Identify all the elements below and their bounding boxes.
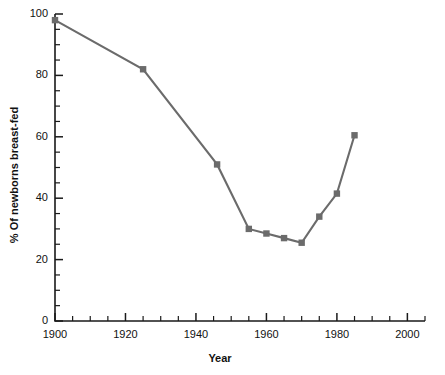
y-tick-label: 100 (30, 7, 48, 19)
y-axis-ticks (55, 14, 63, 321)
y-axis-title: % Of newborns breast-fed (8, 107, 20, 243)
x-axis-title: Year (208, 352, 232, 364)
y-tick-label: 0 (42, 314, 48, 326)
x-tick-label: 2000 (395, 328, 419, 340)
chart-container: 020406080100 190019201940196019802000 % … (0, 0, 445, 375)
data-point-marker (52, 17, 58, 23)
x-tick-label: 1980 (325, 328, 349, 340)
data-point-marker (351, 132, 357, 138)
data-point-marker (298, 240, 304, 246)
data-point-marker (214, 161, 220, 167)
y-tick-label: 60 (36, 130, 48, 142)
data-point-marker (334, 190, 340, 196)
data-point-marker (246, 226, 252, 232)
line-chart: 020406080100 190019201940196019802000 % … (0, 0, 445, 375)
axis-lines (55, 14, 425, 321)
x-axis-ticks (55, 313, 425, 321)
x-tick-label: 1920 (113, 328, 137, 340)
y-tick-label: 40 (36, 191, 48, 203)
data-point-marker (263, 230, 269, 236)
y-axis-tick-labels: 020406080100 (30, 7, 48, 326)
y-tick-label: 20 (36, 253, 48, 265)
data-point-marker (140, 66, 146, 72)
data-series-markers (52, 17, 358, 246)
x-tick-label: 1940 (184, 328, 208, 340)
x-tick-label: 1900 (43, 328, 67, 340)
data-series-line (55, 20, 355, 243)
data-point-marker (281, 235, 287, 241)
x-axis-tick-labels: 190019201940196019802000 (43, 328, 420, 340)
y-tick-label: 80 (36, 68, 48, 80)
data-point-marker (316, 213, 322, 219)
x-tick-label: 1960 (254, 328, 278, 340)
